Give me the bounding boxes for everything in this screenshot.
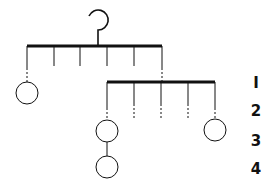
second-bar-hooks [107,82,215,120]
mobile-diagram: I 2 3 4 [0,0,267,191]
level-label-3: 3 [251,132,261,150]
top-bar-hooks [27,46,162,82]
node-left [16,82,38,104]
node-mid-lower [96,156,118,178]
node-right [204,119,226,141]
level-label-1: I [253,74,259,92]
level-label-4: 4 [251,160,261,178]
hanger-hook [89,10,108,45]
node-mid-upper [96,120,118,142]
level-label-2: 2 [251,102,261,120]
